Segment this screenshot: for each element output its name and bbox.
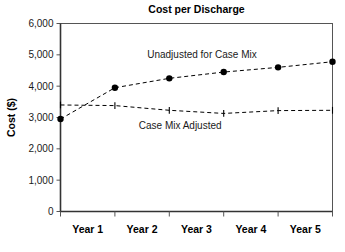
data-point-marker	[275, 64, 281, 70]
cost-per-discharge-chart: Cost per DischargeCost ($)01,0002,0003,0…	[0, 0, 345, 252]
y-axis-tick-label: 6,000	[28, 18, 53, 29]
y-axis-title: Cost ($)	[5, 98, 17, 137]
chart-container: Cost per DischargeCost ($)01,0002,0003,0…	[0, 0, 345, 252]
x-axis-category-label: Year 2	[127, 223, 158, 235]
data-point-marker	[57, 116, 63, 122]
data-point-marker	[221, 69, 227, 75]
data-point-marker	[166, 75, 172, 81]
series-annotation-1: Unadjusted for Case Mix	[147, 49, 257, 60]
data-point-marker	[329, 59, 335, 65]
chart-title: Cost per Discharge	[148, 3, 244, 15]
x-axis-category-label: Year 3	[181, 223, 212, 235]
y-axis-tick-label: 1,000	[28, 175, 53, 186]
y-axis-tick-label: 3,000	[28, 112, 53, 123]
x-axis-category-label: Year 4	[235, 223, 266, 235]
y-axis-tick-label: 0	[48, 206, 54, 217]
y-axis-tick-label: 2,000	[28, 143, 53, 154]
y-axis-tick-label: 4,000	[28, 81, 53, 92]
y-axis-tick-label: 5,000	[28, 49, 53, 60]
x-axis-category-label: Year 1	[72, 223, 103, 235]
series-annotation-2: Case Mix Adjusted	[139, 120, 222, 131]
x-axis-category-label: Year 5	[290, 223, 321, 235]
data-point-marker	[112, 85, 118, 91]
